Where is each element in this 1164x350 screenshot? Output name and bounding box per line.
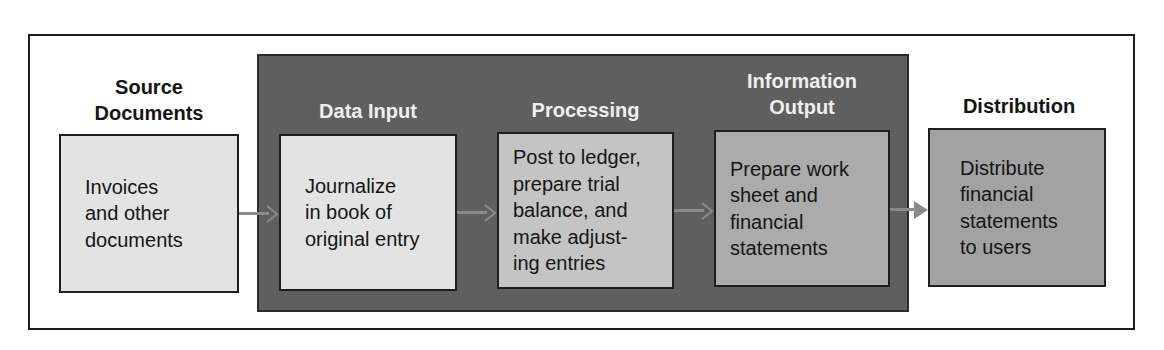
- box-text-line: original entry: [305, 226, 420, 253]
- box-text-line: Prepare work: [730, 156, 849, 183]
- box-text-line: statements: [730, 235, 849, 262]
- heading-data-input: Data Input: [279, 98, 457, 124]
- box-text-line: ing entries: [513, 250, 641, 277]
- heading-line: Distribution: [930, 93, 1108, 119]
- heading-processing: Processing: [497, 97, 674, 123]
- box-text-line: in book of: [305, 199, 420, 226]
- box-processing: Post to ledger, prepare trial balance, a…: [497, 132, 674, 289]
- box-text-line: Distribute: [960, 155, 1058, 182]
- arrow-output-to-distribution-icon: [890, 208, 928, 212]
- heading-line: Information: [714, 68, 890, 94]
- heading-line: Processing: [497, 97, 674, 123]
- box-text-line: documents: [85, 227, 183, 254]
- box-text-line: to users: [960, 234, 1058, 261]
- heading-line: Data Input: [279, 98, 457, 124]
- heading-source-documents: Source Documents: [59, 74, 239, 126]
- box-text-line: Invoices: [85, 174, 183, 201]
- box-text-line: financial: [960, 181, 1058, 208]
- arrow-source-to-input-icon: [239, 212, 279, 216]
- box-text-line: statements: [960, 208, 1058, 235]
- box-distribution: Distribute financial statements to users: [928, 128, 1106, 287]
- box-information-output: Prepare work sheet and financial stateme…: [714, 130, 890, 287]
- box-source-documents: Invoices and other documents: [59, 134, 239, 293]
- box-text-line: prepare trial: [513, 171, 641, 198]
- box-data-input: Journalize in book of original entry: [279, 134, 457, 291]
- heading-line: Source: [59, 74, 239, 100]
- heading-line: Documents: [59, 100, 239, 126]
- box-text-line: sheet and: [730, 182, 849, 209]
- box-text-line: balance, and: [513, 197, 641, 224]
- box-text-line: financial: [730, 209, 849, 236]
- heading-information-output: Information Output: [714, 68, 890, 120]
- box-text-line: Journalize: [305, 173, 420, 200]
- heading-line: Output: [714, 94, 890, 120]
- arrow-input-to-processing-icon: [457, 211, 497, 215]
- arrow-processing-to-output-icon: [674, 209, 714, 213]
- box-text-line: Post to ledger,: [513, 144, 641, 171]
- box-text-line: and other: [85, 200, 183, 227]
- box-text-line: make adjust-: [513, 224, 641, 251]
- heading-distribution: Distribution: [930, 93, 1108, 119]
